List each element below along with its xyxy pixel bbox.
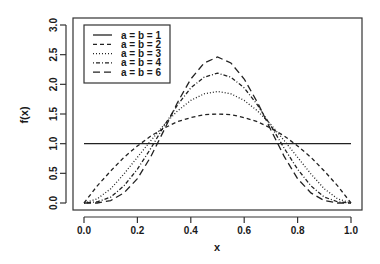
- x-axis-label: x: [214, 241, 221, 253]
- y-tick-label: 2.0: [48, 77, 59, 91]
- y-axis-label: f(x): [18, 106, 30, 123]
- x-tick-label: 1.0: [344, 225, 358, 236]
- series-line-4: [84, 73, 351, 203]
- x-tick-label: 0.4: [184, 225, 198, 236]
- x-tick-label: 0.2: [130, 225, 144, 236]
- y-tick-label: 1.0: [48, 136, 59, 150]
- series-line-3: [84, 92, 351, 204]
- y-tick-label: 1.5: [48, 107, 59, 121]
- x-axis: 0.00.20.40.60.81.0: [77, 217, 358, 236]
- x-tick-label: 0.8: [291, 225, 305, 236]
- legend-entry-label: a = b = 6: [121, 67, 161, 78]
- y-tick-label: 0.5: [48, 166, 59, 180]
- y-tick-label: 3.0: [48, 18, 59, 32]
- x-tick-label: 0.6: [237, 225, 251, 236]
- y-tick-label: 2.5: [48, 47, 59, 61]
- series-line-2: [84, 114, 351, 203]
- beta-density-chart: 0.00.51.01.52.02.53.0 0.00.20.40.60.81.0…: [0, 0, 380, 264]
- x-tick-label: 0.0: [77, 225, 91, 236]
- y-tick-label: 0.0: [48, 196, 59, 210]
- legend: a = b = 1a = b = 2a = b = 3a = b = 4a = …: [84, 25, 170, 83]
- y-axis: 0.00.51.01.52.02.53.0: [48, 18, 66, 210]
